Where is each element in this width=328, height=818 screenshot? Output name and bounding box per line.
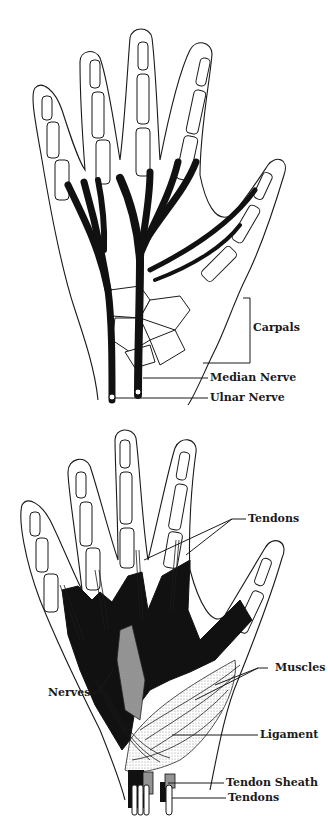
hand-tendons-figure: Tendons Muscles Ligament Nerves Tendon S… [0, 410, 328, 818]
hand-tendons-illustration [0, 410, 328, 818]
tendons-top-label: Tendons [248, 513, 299, 525]
carpals-bracket [203, 298, 250, 363]
carpals-label: Carpals [253, 322, 300, 334]
hand-nerves-figure: Carpals Median Nerve Ulnar Nerve [0, 0, 328, 410]
median-nerve-label: Median Nerve [210, 372, 296, 384]
hand-nerves-illustration [0, 0, 328, 410]
wrist-tendons [128, 770, 175, 815]
nerves-label: Nerves [48, 687, 90, 699]
carpal-bones [110, 286, 190, 368]
ligament-label: Ligament [260, 729, 318, 741]
muscles-label: Muscles [275, 662, 325, 674]
ulnar-nerve-label: Ulnar Nerve [210, 392, 285, 404]
tendons-bottom-label: Tendons [228, 792, 279, 804]
finger-bones [42, 42, 273, 283]
tendon-sheath-label: Tendon Sheath [226, 777, 318, 789]
